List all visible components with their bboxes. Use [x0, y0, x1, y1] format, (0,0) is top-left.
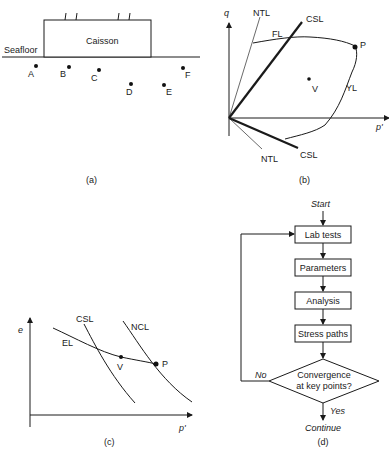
el-label: EL — [62, 338, 73, 348]
no-loop-arrow — [241, 234, 294, 381]
csl-bottom-label: CSL — [300, 150, 318, 160]
ncl-curve — [123, 321, 192, 402]
yes-label: Yes — [330, 406, 346, 416]
start-label: Start — [311, 199, 331, 209]
fl-label: FL — [272, 29, 283, 39]
p-label-c: P — [162, 359, 168, 369]
point-d-label: D — [126, 87, 133, 97]
point-f-label: F — [185, 70, 191, 80]
p-axis-label: p' — [375, 122, 383, 132]
point-a-label: A — [28, 69, 34, 79]
figure-canvas: Caisson Seafloor A B C D E F (a) q p' NT… — [0, 0, 389, 454]
caption-c: (c) — [104, 437, 115, 447]
panel-a-caisson: Caisson Seafloor A B C D E F (a) — [2, 13, 200, 185]
csl-label: CSL — [76, 314, 94, 324]
panel-c-void-ratio: e p' CSL NCL EL V P (c) — [18, 314, 192, 447]
continue-label: Continue — [305, 423, 341, 433]
yl-label: YL — [346, 83, 357, 93]
e-axis-label: e — [18, 325, 23, 335]
point-p — [353, 45, 358, 50]
p-axis-c-label: p' — [178, 423, 186, 433]
step-lab-tests-label: Lab tests — [305, 230, 342, 240]
seafloor-label: Seafloor — [4, 45, 38, 55]
csl-bottom-line — [229, 118, 298, 148]
point-a — [34, 64, 38, 68]
panel-b-stress-space: q p' NTL CSL NTL CSL FL YL P V (b) — [224, 8, 389, 185]
point-b — [67, 65, 71, 69]
step-stress-paths-label: Stress paths — [298, 329, 349, 339]
ntl-bottom-line — [229, 118, 262, 149]
point-p-c — [154, 362, 159, 367]
failure-line — [253, 37, 355, 46]
point-b-label: B — [60, 69, 66, 79]
decision-line2: at key points? — [296, 381, 352, 391]
point-c-label: C — [91, 73, 98, 83]
point-d — [129, 82, 133, 86]
point-e-label: E — [166, 87, 172, 97]
point-c — [97, 68, 101, 72]
csl-top-label: CSL — [306, 14, 324, 24]
caption-b: (b) — [299, 175, 310, 185]
step-parameters-label: Parameters — [300, 263, 347, 273]
csl-top-line — [229, 22, 302, 118]
v-label-c: V — [117, 362, 123, 372]
no-label: No — [255, 370, 267, 380]
panel-d-flowchart: Start Lab tests Parameters Analysis Stre… — [241, 199, 379, 447]
point-v — [307, 77, 311, 81]
step-analysis-label: Analysis — [306, 296, 340, 306]
ncl-label: NCL — [131, 322, 149, 332]
decision-line1: Convergence — [297, 370, 351, 380]
caption-a: (a) — [86, 175, 97, 185]
ntl-top-line — [229, 17, 260, 118]
caisson-label: Caisson — [86, 36, 119, 46]
caption-d: (d) — [318, 437, 329, 447]
caisson-legs — [65, 13, 130, 20]
q-axis-label: q — [224, 8, 229, 18]
v-label: V — [312, 84, 318, 94]
ntl-bottom-label: NTL — [261, 154, 278, 164]
point-v-c — [119, 355, 123, 359]
csl-curve — [84, 324, 135, 403]
p-label: P — [360, 40, 366, 50]
ntl-top-label: NTL — [253, 8, 270, 18]
